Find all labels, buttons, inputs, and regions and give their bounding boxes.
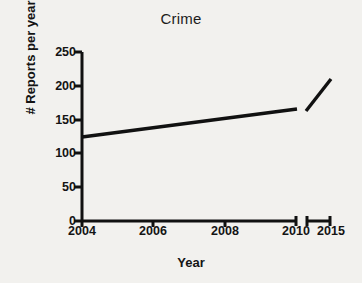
chart-canvas [0, 0, 362, 283]
data-line-segment-2 [306, 79, 331, 111]
crime-line-chart: Crime # Reports per year Year 0 50 100 1… [0, 0, 362, 283]
data-line-segment-1 [82, 109, 297, 137]
